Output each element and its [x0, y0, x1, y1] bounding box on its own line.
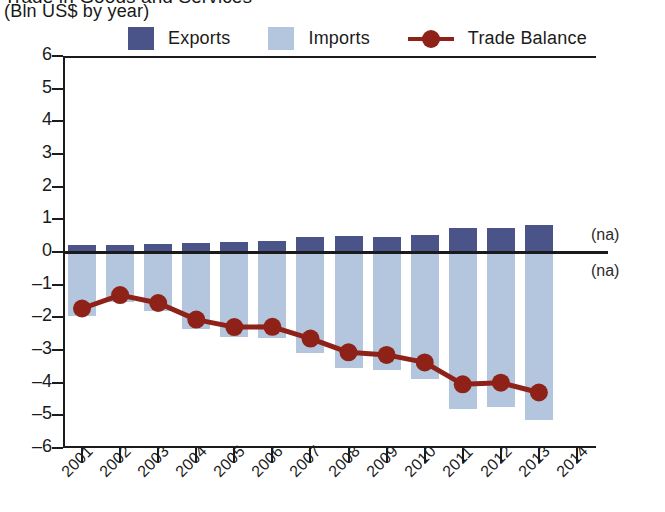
- na-label-exports: (na): [591, 226, 619, 244]
- x-axis-line: [63, 446, 596, 448]
- y-tick-2: [52, 186, 63, 188]
- y-tick-label-4: 4: [6, 109, 52, 130]
- bar-import-2006[interactable]: [258, 252, 286, 338]
- bar-import-2009[interactable]: [373, 252, 401, 370]
- bar-import-2001[interactable]: [68, 252, 96, 316]
- y-tick--3: [52, 349, 63, 351]
- legend-item-imports[interactable]: Imports: [268, 27, 369, 50]
- y-tick-label--2: –2: [6, 305, 52, 326]
- legend-label-imports: Imports: [308, 28, 369, 49]
- bar-import-2003[interactable]: [144, 252, 172, 311]
- bar-export-2011[interactable]: [449, 228, 477, 252]
- na-label-imports: (na): [591, 262, 619, 280]
- x-tick-label-2011: 2011: [439, 443, 477, 481]
- chart-subtitle: (Bln US$ by year): [4, 1, 149, 22]
- bar-import-2013[interactable]: [525, 252, 553, 420]
- plot-top-border: [63, 56, 596, 58]
- y-tick-label-0: 0: [6, 240, 52, 261]
- y-tick-label-3: 3: [6, 142, 52, 163]
- bar-import-2011[interactable]: [449, 252, 477, 409]
- chart-legend: Exports Imports Trade Balance: [128, 27, 587, 50]
- y-tick-3: [52, 153, 63, 155]
- bar-export-2013[interactable]: [525, 225, 553, 252]
- bar-import-2010[interactable]: [411, 252, 439, 379]
- bar-export-2009[interactable]: [373, 237, 401, 252]
- bar-export-2008[interactable]: [335, 236, 363, 252]
- y-tick-1: [52, 218, 63, 220]
- legend-label-exports: Exports: [168, 28, 230, 49]
- y-tick-label--3: –3: [6, 338, 52, 359]
- bar-import-2005[interactable]: [220, 252, 248, 337]
- legend-line-marker-icon: [408, 29, 454, 49]
- y-tick-5: [52, 88, 63, 90]
- y-tick--6: [52, 447, 63, 449]
- y-tick-label--1: –1: [6, 273, 52, 294]
- bar-import-2012[interactable]: [487, 252, 515, 407]
- legend-swatch-exports-icon: [128, 27, 154, 50]
- bar-import-2007[interactable]: [296, 252, 324, 353]
- y-tick--1: [52, 284, 63, 286]
- bar-import-2008[interactable]: [335, 252, 363, 368]
- y-tick-4: [52, 120, 63, 122]
- bar-export-2007[interactable]: [296, 237, 324, 252]
- y-tick-label-1: 1: [6, 207, 52, 228]
- bar-export-2012[interactable]: [487, 228, 515, 252]
- y-tick-label-6: 6: [6, 44, 52, 65]
- y-tick-label--5: –5: [6, 403, 52, 424]
- trade-balance-chart: Trade in Goods and Services (Bln US$ by …: [0, 0, 665, 512]
- y-tick-label--4: –4: [6, 371, 52, 392]
- y-tick-0: [52, 251, 63, 253]
- bar-import-2002[interactable]: [106, 252, 134, 302]
- y-tick-label-5: 5: [6, 77, 52, 98]
- y-tick-label-2: 2: [6, 175, 52, 196]
- legend-item-trade-balance[interactable]: Trade Balance: [408, 28, 587, 49]
- plot-area: (na)(na): [63, 56, 596, 448]
- zero-baseline: [63, 251, 608, 254]
- bar-export-2010[interactable]: [411, 235, 439, 252]
- y-tick-6: [52, 55, 63, 57]
- y-tick--5: [52, 414, 63, 416]
- legend-label-trade-balance: Trade Balance: [468, 28, 587, 49]
- legend-item-exports[interactable]: Exports: [128, 27, 230, 50]
- legend-swatch-imports-icon: [268, 27, 294, 50]
- y-tick--4: [52, 382, 63, 384]
- y-tick--2: [52, 316, 63, 318]
- y-tick-label--6: –6: [6, 436, 52, 457]
- bar-import-2004[interactable]: [182, 252, 210, 329]
